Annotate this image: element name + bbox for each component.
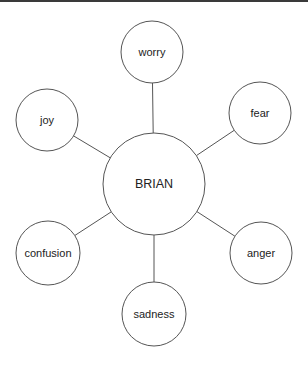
node-label: fear <box>251 107 270 119</box>
node-worry: worry <box>121 21 183 83</box>
edge-fear <box>196 130 234 155</box>
node-label: worry <box>138 46 166 58</box>
node-joy: joy <box>16 89 78 151</box>
node-label: sadness <box>134 308 175 320</box>
edge-worry <box>153 83 154 133</box>
node-fear: fear <box>229 82 291 144</box>
edge-joy <box>74 136 111 158</box>
node-label: anger <box>247 247 275 259</box>
node-confusion: confusion <box>16 221 80 285</box>
node-anger: anger <box>230 222 292 284</box>
edge-confusion <box>75 212 112 236</box>
mind-map-diagram: BRIAN worry fear anger sadness confusion… <box>0 0 308 366</box>
node-sadness: sadness <box>122 282 186 346</box>
edge-anger <box>197 212 235 237</box>
center-node: BRIAN <box>103 133 205 235</box>
node-label: joy <box>39 114 55 126</box>
node-label: confusion <box>24 247 71 259</box>
center-node-label: BRIAN <box>135 177 173 191</box>
